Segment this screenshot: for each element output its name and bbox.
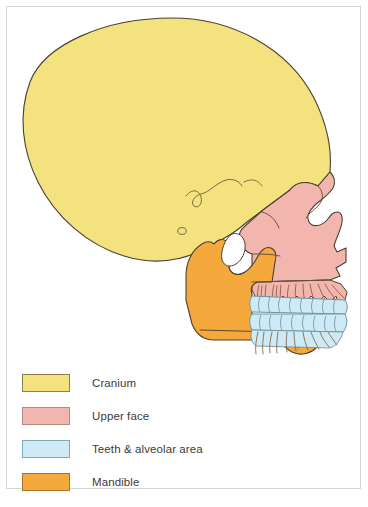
legend-label-upper-face: Upper face	[92, 410, 149, 422]
legend-swatch-teeth	[22, 440, 70, 458]
legend-swatch-mandible	[22, 473, 70, 491]
legend-label-teeth: Teeth & alveolar area	[92, 443, 203, 455]
legend-label-cranium: Cranium	[92, 377, 136, 389]
lower-teeth-band	[250, 314, 347, 332]
legend-label-mandible: Mandible	[92, 476, 139, 488]
legend-item-upper-face: Upper face	[22, 399, 322, 432]
legend-item-cranium: Cranium	[22, 366, 322, 399]
legend: Cranium Upper face Teeth & alveolar area…	[22, 366, 322, 498]
legend-item-mandible: Mandible	[22, 465, 322, 498]
legend-swatch-cranium	[22, 374, 70, 392]
legend-item-teeth: Teeth & alveolar area	[22, 432, 322, 465]
lower-tooth-roots-region	[251, 330, 343, 348]
legend-swatch-upper-face	[22, 407, 70, 425]
figure-root: Cranium Upper face Teeth & alveolar area…	[0, 0, 368, 507]
